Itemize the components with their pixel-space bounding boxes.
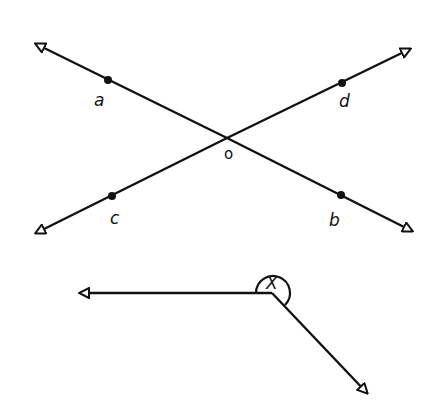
label-x: X xyxy=(265,273,278,293)
line-cd xyxy=(36,49,410,233)
point-b-dot xyxy=(337,191,345,199)
point-a-dot xyxy=(104,76,112,84)
point-c-dot xyxy=(108,192,116,200)
line-ab xyxy=(36,44,412,231)
point-d-dot xyxy=(338,79,346,87)
angle-figure: X xyxy=(80,273,367,393)
label-a: a xyxy=(94,90,104,110)
label-c: c xyxy=(110,208,120,228)
label-d: d xyxy=(339,91,350,111)
label-b: b xyxy=(329,210,340,230)
diagram-canvas: a d o c b X xyxy=(0,0,438,414)
geometry-figure: a d o c b X xyxy=(0,0,438,414)
label-o: o xyxy=(224,145,233,163)
